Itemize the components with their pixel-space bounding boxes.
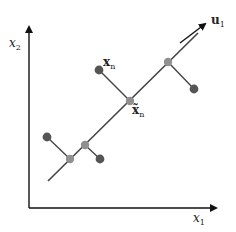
projection-label: x̃n [132,103,144,119]
u1-direction-arrow [180,24,205,43]
x-axis-label: x1 [193,211,205,227]
residual-4 [168,62,194,89]
data-point-4 [190,85,199,94]
y-axis-label: x2 [9,36,21,52]
data-point-1 [43,133,52,142]
projection-point-4 [164,58,172,66]
data-points [43,66,199,164]
projection-point-2 [81,141,89,149]
projection-point-1 [66,155,74,163]
pca-diagram: x2 x1 u1 xn x̃n [0,0,236,232]
residual-1 [47,137,70,159]
data-point-2 [96,155,105,164]
u1-label: u1 [211,13,225,29]
residual-3 [99,70,130,101]
data-point-label: xn [103,55,115,71]
